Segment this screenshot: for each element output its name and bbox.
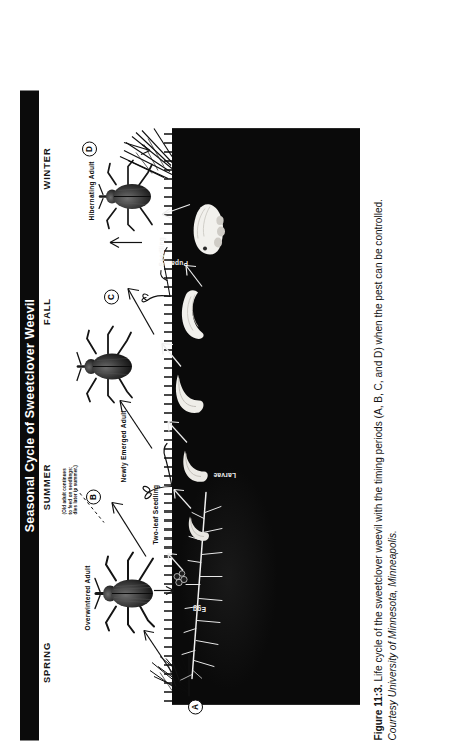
arrow-adult-to-seedling: [106, 496, 150, 558]
figure-page: Seasonal Cycle of Sweetclover Weevil SPR…: [20, 15, 420, 740]
season-scale: SPRING SUMMER FALL WINTER: [42, 90, 56, 740]
pupa: [190, 200, 228, 262]
caption-credit: Courtesy University of Minnesota, Minnea…: [387, 530, 398, 740]
arrow-pupa-to-adult: [156, 194, 192, 220]
label-two-leaf-seedling: Two-leaf Seedling: [152, 484, 159, 544]
larva-instar-3: [172, 368, 206, 418]
label-larvae: Larvae: [213, 471, 236, 478]
leader-line-note: [74, 486, 108, 526]
mature-larva: [178, 286, 210, 342]
figure-caption: Figure 11:3. Life cycle of the sweetclov…: [372, 92, 401, 740]
figure-title-banner: Seasonal Cycle of Sweetclover Weevil: [20, 90, 39, 740]
arrow-larva-1-to-2: [170, 484, 194, 510]
caption-figure-number: Figure 11:3.: [373, 684, 384, 740]
marker-A: A: [188, 699, 203, 714]
label-pupa: Pupa: [171, 259, 188, 266]
label-hibernating-adult: Hibernating Adult: [88, 161, 95, 220]
label-egg: Egg: [193, 605, 206, 612]
season-label-winter: WINTER: [42, 147, 52, 189]
caption-text: Life cycle of the sweetclover weevil wit…: [373, 199, 384, 684]
rotated-figure-canvas: Seasonal Cycle of Sweetclover Weevil SPR…: [20, 15, 420, 740]
arrow-larva-3-to-prepupa: [158, 338, 184, 368]
arrow-larva-2-to-3: [164, 416, 190, 444]
marker-C: C: [104, 289, 119, 304]
season-label-fall: FALL: [42, 298, 52, 325]
figure-title: Seasonal Cycle of Sweetclover Weevil: [23, 298, 37, 531]
label-seedling: Seedling: [158, 237, 165, 266]
season-label-spring: SPRING: [42, 641, 52, 682]
season-label-summer: SUMMER: [42, 463, 52, 510]
marker-D: D: [82, 141, 97, 156]
larva-instar-2: [180, 444, 210, 486]
larva-instar-1: [186, 510, 212, 544]
life-cycle-illustration: A Overwi: [60, 90, 360, 740]
arrow-litter-to-overwintered-adult: [138, 620, 174, 674]
arrow-new-adult-to-fall-seedling: [122, 282, 158, 336]
arrow-egg-to-larva: [164, 548, 186, 572]
arrow-hibernating-adult-to-litter: [122, 132, 156, 156]
label-overwintered-adult: Overwintered Adult: [84, 565, 91, 630]
